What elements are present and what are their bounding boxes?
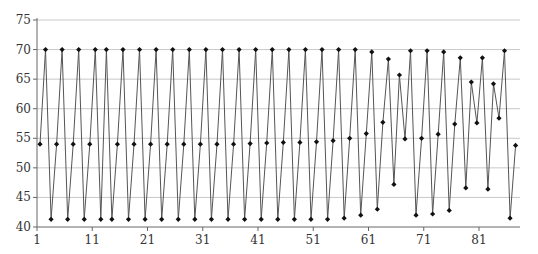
data-point-marker [131, 142, 136, 147]
data-point-marker [513, 143, 518, 148]
x-tick-label: 61 [361, 233, 376, 247]
data-line [40, 50, 516, 220]
data-point-marker [259, 217, 264, 222]
data-point-marker [71, 142, 76, 147]
y-tick-label: 40 [16, 220, 31, 234]
x-tick-label: 1 [33, 233, 41, 247]
data-point-marker [330, 138, 335, 143]
data-point-marker [286, 47, 291, 52]
y-tick-label: 70 [16, 43, 31, 57]
data-point-marker [236, 47, 241, 52]
data-point-marker [491, 81, 496, 86]
data-point-marker [480, 55, 485, 60]
data-point-marker [430, 211, 435, 216]
data-point-marker [225, 217, 230, 222]
data-point-marker [452, 121, 457, 126]
data-point-marker [436, 132, 441, 137]
data-point-marker [37, 142, 42, 147]
x-tick-label: 21 [140, 233, 155, 247]
data-point-marker [54, 142, 59, 147]
data-point-marker [270, 47, 275, 52]
data-point-marker [474, 120, 479, 125]
y-tick-label: 55 [16, 131, 31, 145]
data-point-marker [507, 216, 512, 221]
data-point-marker [48, 217, 53, 222]
x-tick-label: 71 [416, 233, 431, 247]
data-point-marker [314, 139, 319, 144]
data-point-marker [425, 48, 430, 53]
data-point-marker [447, 208, 452, 213]
data-point-marker [187, 47, 192, 52]
data-point-marker [325, 217, 330, 222]
data-point-marker [364, 131, 369, 136]
data-point-marker [159, 217, 164, 222]
data-point-marker [203, 47, 208, 52]
data-point-marker [181, 142, 186, 147]
data-point-marker [248, 141, 253, 146]
y-tick-label: 75 [16, 13, 31, 27]
data-point-marker [342, 216, 347, 221]
data-point-marker [242, 217, 247, 222]
data-point-marker [397, 72, 402, 77]
data-point-marker [375, 207, 380, 212]
data-point-marker [336, 47, 341, 52]
y-axis: 4045505560657075 [16, 13, 37, 234]
plot-area [37, 47, 518, 222]
data-point-marker [502, 48, 507, 53]
data-point-marker [458, 55, 463, 60]
data-point-marker [391, 182, 396, 187]
data-point-marker [142, 217, 147, 222]
data-point-marker [496, 116, 501, 121]
data-point-marker [148, 142, 153, 147]
data-point-marker [82, 217, 87, 222]
data-point-marker [165, 142, 170, 147]
data-point-marker [303, 47, 308, 52]
y-tick-label: 50 [16, 161, 31, 175]
data-point-marker [98, 217, 103, 222]
data-point-marker [281, 140, 286, 145]
data-point-marker [485, 187, 490, 192]
data-point-marker [198, 142, 203, 147]
data-point-marker [380, 120, 385, 125]
data-point-marker [419, 136, 424, 141]
data-point-marker [87, 142, 92, 147]
data-point-marker [115, 142, 120, 147]
x-tick-label: 51 [306, 233, 321, 247]
data-point-marker [126, 217, 131, 222]
x-tick-label: 11 [85, 233, 100, 247]
data-point-marker [192, 217, 197, 222]
data-point-marker [308, 217, 313, 222]
data-point-marker [93, 47, 98, 52]
data-point-marker [109, 217, 114, 222]
data-point-marker [65, 217, 70, 222]
data-point-marker [176, 217, 181, 222]
data-point-marker [253, 47, 258, 52]
x-tick-label: 81 [471, 233, 486, 247]
data-point-marker [463, 185, 468, 190]
data-point-marker [347, 136, 352, 141]
data-point-marker [220, 47, 225, 52]
data-point-marker [60, 47, 65, 52]
data-point-marker [137, 47, 142, 52]
data-point-marker [369, 49, 374, 54]
data-point-marker [170, 47, 175, 52]
data-point-marker [264, 140, 269, 145]
data-point-marker [43, 47, 48, 52]
data-point-marker [231, 142, 236, 147]
data-point-marker [104, 47, 109, 52]
y-tick-label: 45 [16, 190, 31, 204]
data-point-marker [209, 217, 214, 222]
data-point-marker [408, 48, 413, 53]
data-point-marker [154, 47, 159, 52]
data-point-marker [76, 47, 81, 52]
x-tick-label: 41 [250, 233, 265, 247]
y-tick-label: 60 [16, 102, 31, 116]
x-axis: 11121314151617181 [33, 227, 520, 247]
data-point-marker [386, 56, 391, 61]
data-point-marker [120, 47, 125, 52]
data-point-marker [319, 47, 324, 52]
data-point-marker [469, 80, 474, 85]
data-point-marker [402, 136, 407, 141]
data-point-marker [214, 142, 219, 147]
line-chart: 4045505560657075 11121314151617181 [0, 0, 538, 254]
